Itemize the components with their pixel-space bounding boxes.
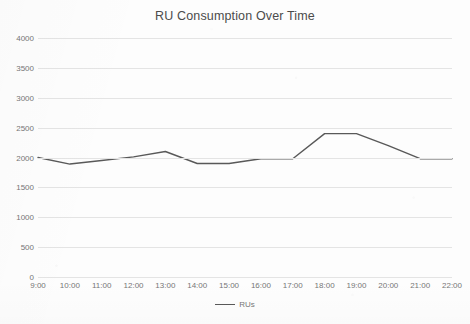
x-tick-label-17-00: 17:00 — [283, 281, 303, 290]
gridline-500 — [38, 247, 452, 248]
y-tick-label-3000: 3000 — [0, 94, 34, 103]
x-tick-label-16-00: 16:00 — [251, 281, 271, 290]
y-tick-label-3500: 3500 — [0, 64, 34, 73]
gridline-1500 — [38, 187, 452, 188]
x-tick-label-11-00: 11:00 — [92, 281, 111, 290]
x-tick-label-21-00: 21:00 — [410, 281, 430, 290]
gridline-1000 — [38, 217, 452, 218]
gridline-2000 — [38, 158, 452, 159]
plot-area — [38, 38, 452, 277]
y-tick-label-0: 0 — [0, 273, 34, 282]
gridline-3000 — [38, 98, 452, 99]
x-tick-label-22-00: 22:00 — [442, 281, 462, 290]
y-tick-label-1000: 1000 — [0, 213, 34, 222]
x-tick-label-9-00: 9:00 — [30, 281, 46, 290]
chart-legend: RUs — [0, 300, 470, 309]
y-tick-label-2500: 2500 — [0, 124, 34, 133]
gridline-2500 — [38, 128, 452, 129]
y-tick-label-2000: 2000 — [0, 154, 34, 163]
legend-swatch-rus — [215, 304, 235, 305]
y-tick-label-4000: 4000 — [0, 34, 34, 43]
legend-label-rus: RUs — [239, 300, 255, 309]
gridline-0 — [38, 277, 452, 278]
x-tick-label-20-00: 20:00 — [378, 281, 398, 290]
x-tick-label-19-00: 19:00 — [346, 281, 366, 290]
y-tick-label-500: 500 — [0, 243, 34, 252]
x-tick-label-15-00: 15:00 — [219, 281, 239, 290]
chart-title: RU Consumption Over Time — [0, 9, 470, 23]
x-axis: 9:0010:0011:0012:0013:0014:0015:0016:001… — [38, 281, 452, 295]
x-tick-label-18-00: 18:00 — [315, 281, 335, 290]
chart-screenshot: RU Consumption Over Time 050010001500200… — [0, 0, 470, 324]
gridline-3500 — [38, 68, 452, 69]
gridline-4000 — [38, 38, 452, 39]
x-tick-label-10-00: 10:00 — [60, 281, 80, 290]
x-tick-label-14-00: 14:00 — [187, 281, 207, 290]
y-tick-label-1500: 1500 — [0, 183, 34, 192]
x-tick-label-12-00: 12:00 — [124, 281, 144, 290]
x-tick-label-13-00: 13:00 — [155, 281, 175, 290]
